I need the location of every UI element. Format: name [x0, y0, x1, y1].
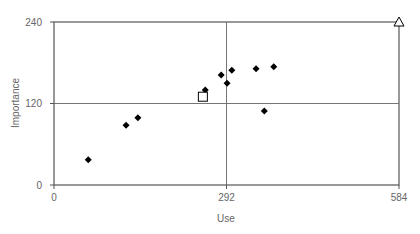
diamond-marker	[85, 156, 92, 163]
scatter-chart: 01202400292584 Use Importance	[0, 0, 420, 234]
diamond-marker	[253, 65, 260, 72]
plot-area	[54, 22, 399, 185]
diamond-marker	[134, 114, 141, 121]
x-axis-title: Use	[217, 213, 235, 224]
y-tick-label: 240	[25, 17, 42, 28]
y-tick-label: 0	[36, 180, 42, 191]
data-points	[85, 17, 404, 163]
axis-ticks: 01202400292584	[25, 17, 407, 204]
x-tick-label: 292	[218, 192, 235, 203]
diamond-marker	[224, 80, 231, 87]
diamond-marker	[228, 67, 235, 74]
x-tick-label: 584	[391, 192, 408, 203]
diamond-marker	[218, 71, 225, 78]
diamond-marker	[261, 107, 268, 114]
y-tick-label: 120	[25, 98, 42, 109]
diamond-marker	[270, 63, 277, 70]
x-tick-label: 0	[51, 192, 57, 203]
square-marker	[198, 92, 207, 101]
diamond-marker	[123, 122, 130, 129]
y-axis-title: Importance	[10, 78, 21, 128]
